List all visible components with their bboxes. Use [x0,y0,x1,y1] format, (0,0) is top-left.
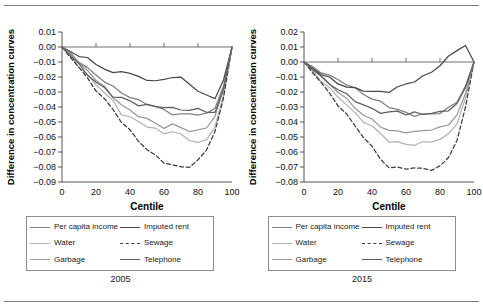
y-tick-label: −0.05 [275,132,298,142]
y-tick-label: 0.01 [38,27,56,37]
x-tick-label: 80 [434,187,444,197]
y-tick-label: −0.06 [33,132,56,142]
y-tick-label: −0.09 [33,177,56,187]
legend-label-sewage: Sewage [144,239,173,247]
legend-item-telephone[interactable]: Telephone [362,256,452,264]
series-line-garbage [62,47,232,132]
x-tick-label: 40 [366,187,376,197]
series-line-imputed-rent [62,47,232,99]
y-tick-label: −0.03 [33,87,56,97]
y-tick-label: 0.00 [280,57,298,67]
y-tick-label: −0.07 [275,162,298,172]
legend-item-water[interactable]: Water [272,239,362,247]
legend-label-imputed-rent: Imputed rent [386,223,431,231]
series-line-water [304,62,474,145]
legend-item-sewage[interactable]: Sewage [120,239,210,247]
x-tick-label: 20 [332,187,342,197]
legend-label-telephone: Telephone [386,256,423,264]
legend-area-2015: Per capita income Imputed rent Water Sew… [242,210,483,302]
legend-swatch-water [30,243,50,244]
x-tick-label: 40 [125,187,135,197]
legend-label-per-capita-income: Per capita income [54,223,118,231]
y-tick-label: −0.04 [275,117,298,127]
legend-swatch-telephone [120,259,140,260]
x-tick-label: 0 [59,187,64,197]
legend-label-sewage: Sewage [386,239,415,247]
x-axis-title: Centile [372,201,406,210]
series-line-per-capita-income [304,62,474,116]
legend-item-sewage[interactable]: Sewage [362,239,452,247]
legend-item-water[interactable]: Water [30,239,120,247]
legend-area-2005: Per capita income Imputed rent Water Sew… [0,210,241,302]
x-tick-label: 100 [224,187,239,197]
plot-area-2015: 0.020.010.00−0.01−0.02−0.03−0.04−0.05−0.… [242,10,483,210]
x-tick-label: 100 [466,187,481,197]
top-divider-rule [4,5,479,6]
series-line-garbage [304,62,474,133]
legend-label-imputed-rent: Imputed rent [144,223,189,231]
legend-item-per-capita-income[interactable]: Per capita income [272,223,362,231]
y-axis-title: Difference in concentration curves [5,29,16,185]
year-label-2005: 2005 [0,274,241,284]
x-tick-label: 20 [91,187,101,197]
y-tick-label: 0.00 [38,42,56,52]
series-line-telephone [62,47,232,112]
y-tick-label: 0.02 [280,27,298,37]
series-line-sewage [62,47,232,167]
y-tick-label: −0.01 [275,72,298,82]
panel-2005: 0.010.00−0.01−0.02−0.03−0.04−0.05−0.06−0… [0,10,242,302]
legend-label-garbage: Garbage [296,256,327,264]
legend-swatch-garbage [272,259,292,260]
legend-box-2005: Per capita income Imputed rent Water Sew… [26,216,214,271]
panel-2015: 0.020.010.00−0.01−0.02−0.03−0.04−0.05−0.… [242,10,483,302]
legend-swatch-imputed-rent [362,227,382,228]
y-tick-label: −0.01 [33,57,56,67]
legend-item-imputed-rent[interactable]: Imputed rent [362,223,452,231]
legend-item-garbage[interactable]: Garbage [30,256,120,264]
y-tick-label: −0.08 [33,162,56,172]
legend-swatch-imputed-rent [120,227,140,228]
line-chart-2015: 0.020.010.00−0.01−0.02−0.03−0.04−0.05−0.… [242,10,483,210]
series-line-sewage [304,62,474,170]
x-axis-title: Centile [130,201,164,210]
line-chart-2005: 0.010.00−0.01−0.02−0.03−0.04−0.05−0.06−0… [0,10,241,210]
legend-label-per-capita-income: Per capita income [296,223,360,231]
legend-label-water: Water [296,239,317,247]
year-label-2015: 2015 [242,274,483,284]
y-tick-label: 0.01 [280,42,298,52]
legend-swatch-per-capita-income [272,227,292,228]
y-tick-label: −0.03 [275,102,298,112]
chart-panels-container: 0.010.00−0.01−0.02−0.03−0.04−0.05−0.06−0… [0,10,483,302]
x-tick-label: 60 [159,187,169,197]
y-tick-label: −0.02 [275,87,298,97]
legend-swatch-sewage [120,243,140,244]
legend-box-2015: Per capita income Imputed rent Water Sew… [268,216,456,271]
legend-label-water: Water [54,239,75,247]
y-tick-label: −0.08 [275,177,298,187]
legend-item-imputed-rent[interactable]: Imputed rent [120,223,210,231]
legend-item-telephone[interactable]: Telephone [120,256,210,264]
legend-label-telephone: Telephone [144,256,181,264]
y-tick-label: −0.04 [33,102,56,112]
y-tick-label: −0.05 [33,117,56,127]
plot-area-2005: 0.010.00−0.01−0.02−0.03−0.04−0.05−0.06−0… [0,10,241,210]
y-tick-label: −0.06 [275,147,298,157]
series-line-imputed-rent [304,46,474,93]
y-tick-label: −0.02 [33,72,56,82]
legend-item-per-capita-income[interactable]: Per capita income [30,223,120,231]
x-tick-label: 0 [301,187,306,197]
legend-label-garbage: Garbage [54,256,85,264]
legend-swatch-water [272,243,292,244]
legend-item-garbage[interactable]: Garbage [272,256,362,264]
y-tick-label: −0.07 [33,147,56,157]
legend-swatch-sewage [362,243,382,244]
legend-swatch-garbage [30,259,50,260]
y-axis-title: Difference in concentration curves [247,29,258,185]
x-tick-label: 80 [193,187,203,197]
legend-swatch-per-capita-income [30,227,50,228]
legend-swatch-telephone [362,259,382,260]
x-tick-label: 60 [400,187,410,197]
